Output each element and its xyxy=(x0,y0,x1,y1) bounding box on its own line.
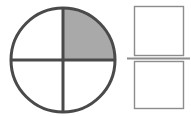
numerator-box[interactable] xyxy=(135,7,184,56)
figure-canvas xyxy=(0,0,191,116)
denominator-box[interactable] xyxy=(135,62,184,109)
fraction-worksheet-figure: Shaded circle fraction model with empty … xyxy=(0,0,191,116)
